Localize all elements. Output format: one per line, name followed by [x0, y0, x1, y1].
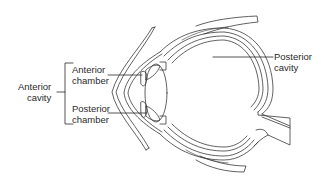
eye-diagram: Anterior cavity Anterior chamber Posteri… [0, 0, 329, 192]
label-anterior-cavity: Anterior cavity [18, 81, 51, 103]
globe-layers [160, 16, 273, 172]
eyelids [112, 27, 155, 150]
label-anterior-chamber: Anterior chamber [72, 64, 109, 86]
label-posterior-cavity: Posterior cavity [274, 51, 312, 73]
optic-nerve [254, 112, 290, 146]
label-posterior-chamber: Posterior chamber [72, 103, 110, 125]
